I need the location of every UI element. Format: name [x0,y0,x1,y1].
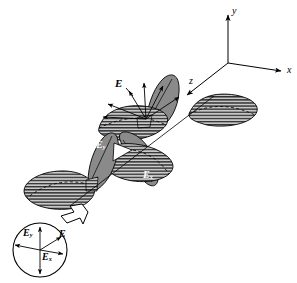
Ey-component-label: Ey [96,140,105,151]
ex-lobe-left [24,171,95,209]
polarized-wave-figure: y x z E Ey Ex Ey E Ex [0,0,297,283]
z-axis-label: z [189,76,193,86]
circle-e-resultant-arrow [40,237,61,250]
circle-E-label: E [59,229,66,239]
circle-ex-neg-arrow [15,245,40,250]
coordinate-axes [187,15,281,95]
ex-lobe-right [189,94,257,126]
y-axis-label: y [232,6,236,16]
e-label-leader [126,88,133,96]
z-axis-line [187,63,228,95]
x-axis-line [228,63,281,71]
x-axis-label: x [287,65,291,75]
Ex-component-label: Ex [143,170,153,181]
figure-canvas [0,0,297,283]
circle-Ex-label: Ex [42,252,52,263]
circle-Ey-label: Ey [23,228,32,239]
e-field-label: E [115,78,122,89]
